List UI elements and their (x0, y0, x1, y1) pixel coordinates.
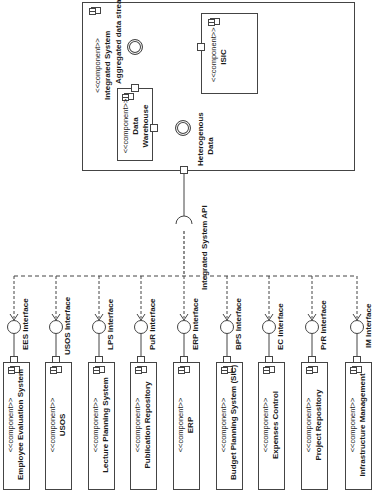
interface-label-im: IM Interface (364, 304, 374, 348)
component-label: <<component>> ERP (176, 370, 196, 480)
interface-label-usos: USOS Interface (63, 297, 73, 355)
component-label: <<component>> Lecture Planning System (91, 370, 111, 480)
aggregated-data-stream-label: Aggregated data stream (114, 0, 124, 84)
component-icon (91, 7, 101, 14)
aggregated-data-stream-interface[interactable] (127, 39, 143, 55)
data-warehouse-right-port[interactable] (150, 124, 158, 132)
interface-lollipop-usos[interactable] (49, 320, 63, 334)
interface-label-pur: PuR Interface (148, 298, 158, 350)
integrated-system-api-port[interactable] (180, 166, 188, 174)
isic-port[interactable] (197, 43, 205, 51)
interface-lollipop-prr[interactable] (305, 320, 319, 334)
integrated-system-label: <<component>> Integrated System (93, 31, 113, 100)
interface-label-ec: EC Interface (276, 303, 286, 350)
integrated-system-api-label: Integrated System API (200, 205, 210, 290)
component-label: <<component>> Infrastructure Management (348, 370, 368, 480)
component-label: <<component>> Budget Planning System (SI… (219, 370, 239, 480)
component-label: <<component>> Expenses Control (261, 370, 281, 480)
interface-lollipop-ees[interactable] (7, 320, 21, 334)
interface-label-erp: ERP Interface (191, 298, 201, 350)
component-label: <<component>> Project Repository (304, 370, 324, 480)
component-label: <<component>> Publication Repository (133, 370, 153, 480)
interface-lollipop-im[interactable] (350, 320, 364, 334)
interface-lollipop-erp[interactable] (177, 320, 191, 334)
component-label: <<component>> Employee Evaluation System (6, 370, 26, 480)
interface-lollipop-bps[interactable] (220, 320, 234, 334)
heterogenous-data-label: Heterogenous Data (196, 126, 216, 166)
interface-lollipop-ec[interactable] (262, 320, 276, 334)
data-warehouse-top-port[interactable] (131, 84, 139, 92)
interface-lollipop-lps[interactable] (92, 320, 106, 334)
heterogenous-data-interface[interactable] (175, 120, 191, 136)
interface-label-prr: PrR Interface (319, 300, 329, 350)
interface-label-ees: EES Interface (21, 298, 31, 350)
data-warehouse-label: <<component>> Data Warehouse (121, 96, 151, 156)
isic-label: <<component>> ISIC (209, 32, 229, 82)
interface-lollipop-pur[interactable] (134, 320, 148, 334)
interface-label-bps: BPS Interface (234, 298, 244, 350)
interface-label-lps: LPS Interface (106, 299, 116, 350)
component-label: <<component>> USOS (48, 370, 68, 480)
component-icon (210, 18, 220, 25)
